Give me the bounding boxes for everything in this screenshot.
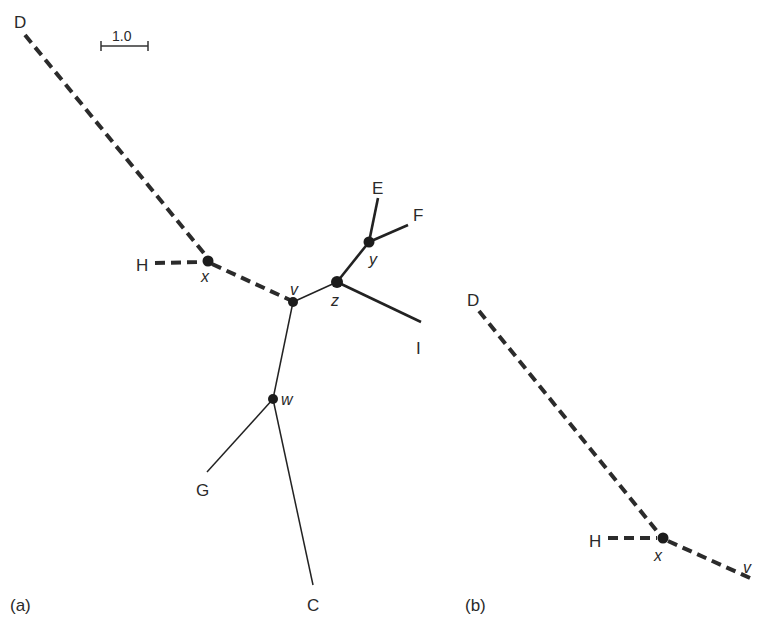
edge-z-y	[337, 242, 369, 282]
scale-bar: 1.0	[101, 28, 148, 51]
leaf-label-d: D	[14, 13, 26, 32]
edge-b-d-x	[479, 311, 660, 535]
edge-v-w	[273, 302, 293, 399]
leaf-label-e: E	[372, 179, 383, 198]
leaf-label-f: F	[413, 206, 423, 225]
leaf-label-b-h: H	[589, 532, 601, 551]
node-w	[268, 394, 278, 404]
edge-x-v	[212, 264, 290, 300]
node-label-b-v: v	[743, 559, 752, 576]
panel-a-edges	[25, 35, 421, 585]
edge-b-x-v	[668, 541, 750, 578]
node-label-v: v	[290, 281, 299, 298]
leaf-label-i: I	[416, 339, 421, 358]
node-z	[331, 276, 343, 288]
leaf-label-b-d: D	[467, 291, 479, 310]
edge-h-x	[155, 262, 203, 263]
panel-label-a: (a)	[10, 596, 31, 615]
node-label-b-x: x	[653, 547, 663, 564]
scale-bar-label: 1.0	[112, 28, 132, 44]
node-label-z: z	[330, 292, 339, 309]
edge-y-e	[369, 198, 378, 242]
panel-b: D H x v (b)	[465, 291, 752, 615]
edge-y-f	[369, 225, 408, 242]
edge-d-x	[25, 35, 207, 257]
leaf-label-g: G	[196, 481, 209, 500]
node-x	[203, 256, 214, 267]
panel-label-b: (b)	[465, 596, 486, 615]
leaf-label-h: H	[136, 256, 148, 275]
edge-w-c	[273, 399, 313, 585]
node-b-x	[658, 533, 669, 544]
edge-w-g	[207, 399, 273, 472]
node-label-y: y	[368, 251, 378, 268]
node-y	[364, 237, 375, 248]
panel-a-labels: D H E F I G C x v z y w (a)	[10, 13, 423, 615]
node-v	[288, 297, 298, 307]
node-label-w: w	[281, 391, 294, 408]
edge-z-i	[337, 282, 421, 322]
leaf-label-c: C	[307, 596, 319, 615]
phylogenetic-tree-figure: 1.0 D H E F I G C x v z y w (a)	[0, 0, 763, 630]
node-label-x: x	[200, 268, 210, 285]
